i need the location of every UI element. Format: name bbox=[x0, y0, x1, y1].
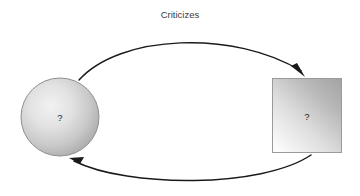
arrowhead-to-square bbox=[291, 63, 305, 77]
edge-bottom-curve bbox=[74, 155, 311, 181]
edge-circle-to-square[interactable] bbox=[79, 43, 305, 80]
diagram-canvas: ? ? Criticizes bbox=[0, 0, 360, 196]
node-circle[interactable]: ? bbox=[21, 78, 99, 156]
circle-node-label: ? bbox=[57, 112, 62, 123]
relationship-diagram: ? ? Criticizes bbox=[0, 0, 360, 196]
relation-title: Criticizes bbox=[161, 9, 200, 20]
edge-square-to-circle[interactable] bbox=[69, 155, 311, 181]
square-node-label: ? bbox=[304, 111, 309, 122]
edge-top-curve bbox=[79, 43, 301, 80]
node-square[interactable]: ? bbox=[273, 79, 342, 153]
